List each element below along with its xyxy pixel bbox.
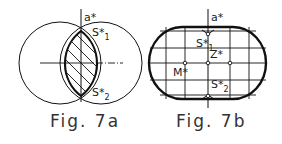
point-s1: [206, 32, 210, 36]
fig7b-caption: Fig. 7b: [176, 111, 246, 131]
axis-a-label: a*: [84, 11, 97, 24]
fig7a-diagram: a* S*1 S*2 Fig. 7a: [19, 0, 142, 136]
point-m: [183, 61, 187, 65]
fig7a-caption: Fig. 7a: [50, 111, 120, 131]
s1-label: S*1: [92, 26, 110, 42]
point-z: [206, 61, 210, 65]
point-s2: [206, 94, 210, 98]
axis-a-label-7b: a*: [211, 11, 224, 24]
point-right: [228, 61, 232, 65]
figure-canvas: a* S*1 S*2 Fig. 7a a* S*1 Z* M* S*2: [0, 0, 282, 144]
fig7b-diagram: a* S*1 Z* M* S*2 Fig. 7b: [149, 9, 266, 131]
m-label: M*: [173, 66, 188, 79]
s2-label: S*2: [92, 86, 110, 102]
z-label: Z*: [210, 48, 224, 61]
